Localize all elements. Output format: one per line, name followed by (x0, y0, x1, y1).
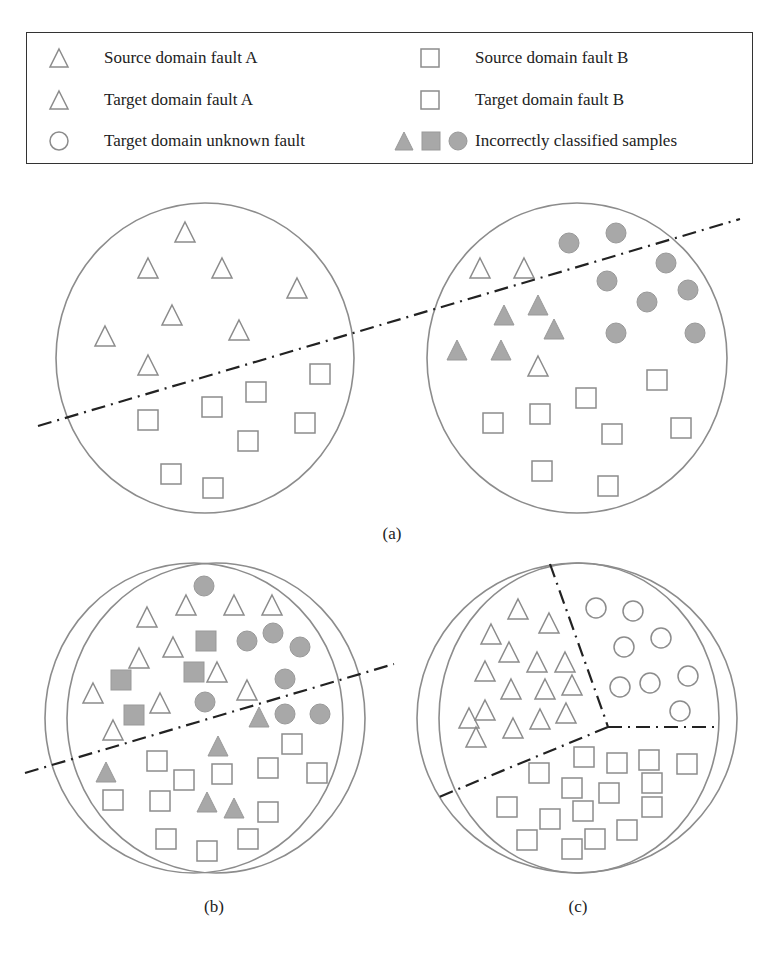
triangle-sample-icon (176, 595, 196, 615)
triangle-sample-icon (475, 661, 495, 681)
square-open-icon (419, 47, 441, 69)
misclassified-circle-icon (310, 704, 330, 724)
misclassified-circle-icon (194, 576, 214, 596)
square-sample-icon (307, 763, 327, 783)
misclassified-circle-icon (637, 292, 657, 312)
square-sample-icon (530, 404, 550, 424)
filled-triangle-icon (393, 130, 415, 152)
triangle-sample-icon (95, 326, 115, 346)
filled-circle-icon (447, 130, 469, 152)
circle-sample-icon (670, 701, 690, 721)
panel-b (25, 563, 394, 873)
square-sample-icon (642, 797, 662, 817)
panel-c (417, 563, 737, 873)
misclassified-circle-icon (656, 253, 676, 273)
triangle-sample-icon (175, 222, 195, 242)
square-sample-icon (212, 764, 232, 784)
square-sample-icon (203, 478, 223, 498)
misclassified-triangle-icon (249, 707, 269, 727)
square-sample-icon (540, 809, 560, 829)
panel-label-b: (b) (204, 897, 224, 917)
square-sample-icon (602, 424, 622, 444)
triangle-sample-icon (103, 720, 123, 740)
square-sample-icon (258, 802, 278, 822)
triangle-sample-icon (138, 258, 158, 278)
misclassified-circle-icon (678, 280, 698, 300)
triangle-sample-icon (475, 700, 495, 720)
square-open-icon (419, 89, 441, 111)
triangle-sample-icon (555, 652, 575, 672)
triangle-sample-icon (237, 680, 257, 700)
misclassified-square-icon (111, 670, 131, 690)
legend-label: Target domain fault B (475, 90, 624, 110)
legend-item-source-fault-a: Source domain fault A (27, 46, 387, 70)
legend-item-incorrectly-classified: Incorrectly classified samples (387, 129, 753, 153)
triangle-sample-icon (539, 613, 559, 633)
legend-label: Target domain fault A (104, 90, 253, 110)
square-sample-icon (282, 734, 302, 754)
triangle-sample-icon (481, 624, 501, 644)
square-sample-icon (517, 830, 537, 850)
triangle-sample-icon (501, 679, 521, 699)
triangle-sample-icon (83, 683, 103, 703)
misclassified-triangle-icon (197, 792, 217, 812)
circle-sample-icon (610, 677, 630, 697)
square-sample-icon (573, 801, 593, 821)
square-sample-icon (197, 841, 217, 861)
triangle-sample-icon (137, 607, 157, 627)
triangle-sample-icon (163, 637, 183, 657)
square-sample-icon (532, 461, 552, 481)
square-sample-icon (529, 763, 549, 783)
square-sample-icon (642, 773, 662, 793)
misclassified-square-icon (196, 631, 216, 651)
square-sample-icon (138, 410, 158, 430)
square-sample-icon (574, 747, 594, 767)
triangle-sample-icon (527, 652, 547, 672)
square-sample-icon (147, 751, 167, 771)
square-sample-icon (156, 829, 176, 849)
legend-item-target-unknown-fault: Target domain unknown fault (27, 129, 387, 153)
misclassified-circle-icon (237, 631, 257, 651)
circle-sample-icon (586, 598, 606, 618)
square-sample-icon (310, 364, 330, 384)
filled-square-icon (420, 130, 442, 152)
square-sample-icon (295, 413, 315, 433)
square-sample-icon (617, 820, 637, 840)
square-sample-icon (576, 388, 596, 408)
square-sample-icon (202, 397, 222, 417)
triangle-open-icon (48, 89, 70, 111)
panel-a (38, 203, 740, 513)
misclassified-square-icon (124, 705, 144, 725)
triangle-sample-icon (499, 642, 519, 662)
square-sample-icon (607, 753, 627, 773)
legend-label: Target domain unknown fault (104, 131, 305, 151)
square-sample-icon (103, 790, 123, 810)
triangle-sample-icon (556, 703, 576, 723)
square-sample-icon (238, 829, 258, 849)
triangle-sample-icon (224, 595, 244, 615)
panel-label-a: (a) (383, 524, 402, 544)
legend-item-target-fault-b: Target domain fault B (387, 88, 747, 112)
misclassified-triangle-icon (447, 340, 467, 360)
misclassified-triangle-icon (491, 340, 511, 360)
circle-open-icon (48, 130, 70, 152)
misclassified-circle-icon (263, 623, 283, 643)
triangle-sample-icon (470, 258, 490, 278)
legend-item-source-fault-b: Source domain fault B (387, 46, 747, 70)
square-sample-icon (562, 778, 582, 798)
legend-label: Source domain fault B (475, 48, 628, 68)
triangle-sample-icon (528, 356, 548, 376)
triangle-sample-icon (229, 320, 249, 340)
square-sample-icon (639, 750, 659, 770)
legend-label: Source domain fault A (104, 48, 257, 68)
circle-sample-icon (614, 637, 634, 657)
misclassified-triangle-icon (528, 295, 548, 315)
circle-sample-icon (678, 666, 698, 686)
circle-sample-icon (623, 601, 643, 621)
square-sample-icon (150, 791, 170, 811)
misclassified-circle-icon (275, 669, 295, 689)
domain-boundary-circle (417, 563, 737, 873)
misclassified-triangle-icon (96, 762, 116, 782)
misclassified-circle-icon (559, 233, 579, 253)
square-sample-icon (258, 758, 278, 778)
